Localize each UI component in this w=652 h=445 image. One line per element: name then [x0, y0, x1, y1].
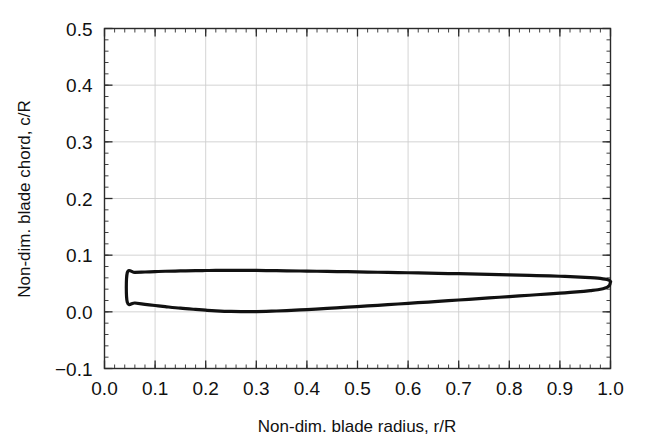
- x-tick-label: 0.3: [243, 378, 269, 399]
- y-tick-label: 0.1: [66, 245, 92, 266]
- x-tick-label: 0.1: [142, 378, 168, 399]
- y-tick-label: 0.2: [66, 189, 92, 210]
- x-tick-label: 1.0: [597, 378, 623, 399]
- y-axis-title: Non-dim. blade chord, c/R: [15, 100, 34, 297]
- y-tick-label: 0.4: [66, 75, 93, 96]
- y-tick-label: −0.1: [55, 359, 93, 380]
- y-tick-label: 0.3: [66, 132, 92, 153]
- x-tick-label: 0.9: [547, 378, 573, 399]
- chart-figure: 0.00.10.20.30.40.50.60.70.80.91.0 −0.10.…: [0, 0, 652, 445]
- blade-planform-chart: 0.00.10.20.30.40.50.60.70.80.91.0 −0.10.…: [0, 0, 652, 445]
- x-tick-label: 0.0: [91, 378, 117, 399]
- x-tick-label: 0.4: [294, 378, 321, 399]
- x-tick-label: 0.7: [445, 378, 471, 399]
- x-tick-label: 0.5: [344, 378, 370, 399]
- x-tick-label: 0.6: [395, 378, 421, 399]
- y-tick-label: 0.5: [66, 19, 92, 40]
- x-axis-title: Non-dim. blade radius, r/R: [258, 417, 456, 436]
- x-tick-label: 0.2: [192, 378, 218, 399]
- x-tick-label: 0.8: [496, 378, 522, 399]
- y-tick-label: 0.0: [66, 302, 92, 323]
